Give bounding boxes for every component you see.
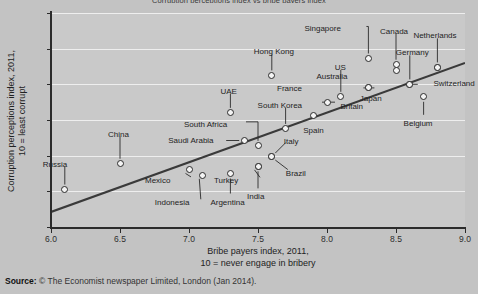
point-label-hong-kong: Hong Kong [254,47,294,56]
point-label-argentina: Argentina [210,198,244,207]
y-axis-title-line1: Corruption perceptions index, 2011, [6,50,16,192]
x-axis-title: Bribe payers index, 2011, 10 = never eng… [51,246,465,269]
data-point[interactable] [434,64,441,71]
x-tick-label: 8.0 [307,234,347,244]
point-label-us: US [335,63,346,72]
point-label-belgium: Belgium [404,119,433,128]
point-label-netherlands: Netherlands [413,31,456,40]
data-point[interactable] [117,160,124,167]
y-axis-title: Corruption perceptions index, 2011, 10 =… [6,16,28,226]
data-point[interactable] [255,142,262,149]
data-point[interactable] [241,137,248,144]
point-label-spain: Spain [303,126,323,135]
x-tick-mark [51,229,52,233]
data-point[interactable] [393,67,400,74]
y-axis-title-line2: 10 = least corrupt [17,86,27,156]
source-text: © The Economist newspaper Limited, Londo… [39,276,256,286]
point-label-australia: Australia [316,72,347,81]
point-label-switzerland: Switzerland [433,79,474,88]
x-tick-mark [465,229,466,233]
x-tick-label: 6.0 [31,234,71,244]
y-axis-line [50,11,52,229]
x-tick-label: 6.5 [100,234,140,244]
point-label-uae: UAE [220,87,236,96]
point-label-canada: Canada [380,27,408,36]
point-label-india: India [247,192,264,201]
point-label-china: China [108,130,129,139]
point-label-indonesia: Indonesia [155,198,190,207]
point-label-france: France [277,84,302,93]
point-label-turkey: Turkey [214,176,238,185]
data-point[interactable] [324,99,331,106]
plot-area: 024681012RussiaChinaMexicoIndonesiaArgen… [51,13,465,227]
source-line: Source: © The Economist newspaper Limite… [5,276,256,286]
x-tick-label: 9.0 [445,234,478,244]
data-point[interactable] [365,55,372,62]
point-label-singapore: Singapore [304,24,340,33]
x-axis-title-line2: 10 = never engage in bribery [201,258,316,268]
point-label-south-korea: South Korea [258,101,302,110]
point-label-mexico: Mexico [145,176,170,185]
x-tick-label: 7.0 [169,234,209,244]
data-point[interactable] [310,112,317,119]
point-label-japan: Japan [360,94,382,103]
x-tick-mark [327,229,328,233]
chart-figure: Corruption perceptions index vs bribe pa… [0,0,478,294]
x-tick-label: 8.5 [376,234,416,244]
point-label-russia: Russia [43,160,67,169]
data-point[interactable] [186,166,193,173]
point-label-south-africa: South Africa [184,120,227,129]
x-tick-mark [258,229,259,233]
point-label-saudi-arabia: Saudi Arabia [168,136,213,145]
data-point[interactable] [255,163,262,170]
x-tick-mark [120,229,121,233]
x-tick-label: 7.5 [238,234,278,244]
point-label-brazil: Brazil [286,169,306,178]
x-axis-ticks: 6.06.57.07.58.08.59.0 [51,229,465,249]
x-tick-mark [396,229,397,233]
source-prefix: Source: [5,276,37,286]
point-label-germany: Germany [396,48,429,57]
point-label-italy: Italy [284,137,299,146]
chart-title: Corruption perceptions index vs bribe pa… [0,0,478,3]
x-tick-mark [189,229,190,233]
